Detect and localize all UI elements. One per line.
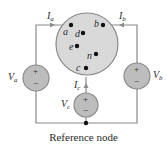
- arrow-ic-icon: [84, 83, 89, 88]
- reference-node-dot: [84, 121, 88, 125]
- node-a-label: a: [63, 27, 68, 37]
- source-va-label: Va: [8, 72, 18, 85]
- node-b-label: b: [94, 19, 99, 29]
- node-c-dot: [84, 66, 88, 70]
- current-ib-label: Ib: [119, 11, 126, 24]
- node-d-dot: [81, 31, 85, 35]
- current-ic-label: Ic: [74, 80, 80, 93]
- node-a-dot: [69, 23, 73, 27]
- node-d-label: d: [75, 29, 80, 39]
- vc-plus-sign: +: [83, 94, 88, 104]
- node-e-dot: [75, 44, 79, 48]
- node-n-label: n: [87, 51, 92, 61]
- node-n-dot: [94, 52, 98, 56]
- va-plus-sign: +: [33, 66, 38, 76]
- node-b-dot: [101, 23, 105, 27]
- circuit-drawing: [0, 0, 167, 148]
- circuit-diagram: a b c d e n Ia Ib Ic Va Vb Vc + − + − + …: [0, 0, 167, 148]
- reference-node-caption: Reference node: [0, 131, 167, 143]
- node-c-label: c: [76, 63, 80, 73]
- vc-minus-sign: −: [83, 105, 88, 115]
- node-e-label: e: [69, 42, 73, 52]
- source-vb-label: Vb: [153, 70, 163, 83]
- network-circle: [56, 13, 118, 75]
- va-minus-sign: −: [33, 78, 38, 88]
- vb-minus-sign: −: [134, 76, 139, 86]
- current-ia-label: Ia: [47, 11, 54, 24]
- vb-plus-sign: +: [134, 64, 139, 74]
- source-vc-label: Vc: [61, 99, 70, 112]
